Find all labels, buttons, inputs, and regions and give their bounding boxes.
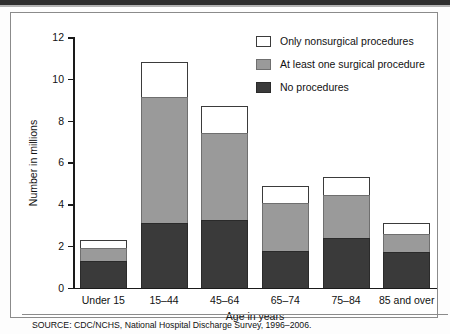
y-tick-label-10: 10 — [52, 73, 64, 85]
y-tick-label-8: 8 — [58, 115, 64, 127]
stacked-bar[interactable] — [323, 177, 370, 288]
bar-segment[interactable] — [141, 62, 188, 96]
y-tick-label-12: 12 — [52, 31, 64, 43]
legend-label: No procedures — [280, 81, 349, 93]
x-axis-line — [73, 288, 437, 290]
x-tick-label-0: Under 15 — [82, 294, 125, 306]
x-tick-label-3: 65–74 — [271, 294, 300, 306]
source-divider — [22, 314, 448, 315]
bar-segment[interactable] — [323, 238, 370, 287]
bar-segment[interactable] — [201, 106, 248, 133]
bar-slot-0: Under 15 — [73, 37, 134, 288]
y-tick-label-0: 0 — [58, 282, 64, 294]
bar-segment[interactable] — [262, 251, 309, 288]
stacked-bar[interactable] — [141, 62, 188, 287]
chart-legend: Only nonsurgical proceduresAt least one … — [256, 35, 425, 104]
y-tick-label-4: 4 — [58, 198, 64, 210]
legend-label: Only nonsurgical procedures — [280, 35, 414, 47]
bar-segment[interactable] — [80, 261, 127, 287]
stacked-bar[interactable] — [201, 106, 248, 288]
x-tick-label-5: 85 and over — [379, 294, 434, 306]
bar-segment[interactable] — [262, 186, 309, 203]
figure-frame: Number in millions 024681012 Under 1515–… — [10, 12, 438, 318]
scan-top-band-shadow — [0, 5, 450, 7]
legend-swatch-icon — [256, 36, 271, 47]
bar-segment[interactable] — [383, 252, 430, 287]
stacked-bar[interactable] — [80, 240, 127, 288]
bar-slot-2: 45–64 — [194, 37, 255, 288]
legend-item[interactable]: No procedures — [256, 81, 425, 93]
bar-segment[interactable] — [201, 220, 248, 288]
y-axis-title: Number in millions — [27, 120, 39, 206]
stacked-bar[interactable] — [262, 186, 309, 287]
bar-segment[interactable] — [80, 240, 127, 248]
bar-segment[interactable] — [383, 223, 430, 234]
bar-segment[interactable] — [141, 223, 188, 288]
legend-label: At least one surgical procedure — [280, 58, 425, 70]
bar-segment[interactable] — [201, 133, 248, 220]
x-tick-label-1: 15–44 — [149, 294, 178, 306]
y-tick-label-2: 2 — [58, 240, 64, 252]
stacked-bar[interactable] — [383, 223, 430, 288]
bar-segment[interactable] — [262, 203, 309, 251]
bar-segment[interactable] — [323, 177, 370, 195]
legend-swatch-icon — [256, 59, 271, 70]
bar-segment[interactable] — [323, 195, 370, 239]
legend-item[interactable]: Only nonsurgical procedures — [256, 35, 425, 47]
figure-page: Number in millions 024681012 Under 1515–… — [0, 0, 450, 334]
legend-item[interactable]: At least one surgical procedure — [256, 58, 425, 70]
source-note: SOURCE: CDC/NCHS, National Hospital Disc… — [32, 320, 311, 330]
y-tick-label-6: 6 — [58, 156, 64, 168]
bar-segment[interactable] — [383, 234, 430, 252]
bar-segment[interactable] — [80, 248, 127, 262]
y-tick-0 — [68, 288, 73, 290]
x-tick-label-4: 75–84 — [331, 294, 360, 306]
bar-slot-1: 15–44 — [134, 37, 195, 288]
x-tick-label-2: 45–64 — [210, 294, 239, 306]
legend-swatch-icon — [256, 82, 271, 93]
bar-segment[interactable] — [141, 97, 188, 223]
